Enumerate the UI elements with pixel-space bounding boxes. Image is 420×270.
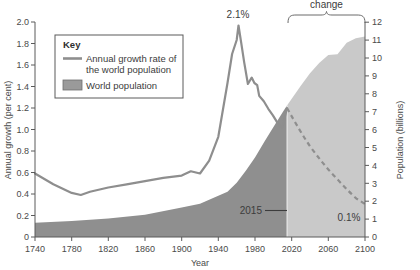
right-axis-ticks — [365, 22, 369, 237]
x-tick-2060: 2060 — [318, 244, 338, 254]
legend-title: Key — [63, 39, 81, 50]
left-tick-3: 0.6 — [16, 168, 29, 178]
legend-item-population-label: World population — [86, 80, 157, 91]
legend-item-growth-label-line1: Annual growth rate of — [86, 53, 177, 64]
left-tick-5: 1.0 — [16, 125, 29, 135]
x-axis-title: Year — [191, 258, 209, 268]
legend-item-growth-label-line2: the world population — [86, 64, 171, 75]
right-tick-0: 0 — [372, 232, 377, 242]
right-tick-12: 12 — [372, 17, 382, 27]
right-tick-10: 10 — [372, 53, 382, 63]
right-tick-7: 7 — [372, 107, 377, 117]
left-tick-4: 0.8 — [16, 146, 29, 156]
chart-svg: 0 0.2 0.4 0.6 0.8 1.0 1.2 1.4 1.6 1.8 2.… — [0, 0, 420, 270]
left-tick-7: 1.4 — [16, 82, 29, 92]
right-tick-8: 8 — [372, 89, 377, 99]
right-tick-6: 6 — [372, 125, 377, 135]
left-tick-8: 1.6 — [16, 60, 29, 70]
left-axis-ticks — [31, 22, 35, 237]
legend: Key Annual growth rate of the world popu… — [55, 35, 183, 98]
right-tick-5: 5 — [372, 143, 377, 153]
peak-growth-annotation: 2.1% — [227, 9, 250, 20]
projection-brace-label: change — [310, 0, 343, 10]
projection-boundary-annotation: 2015 — [240, 205, 263, 216]
x-tick-1900: 1900 — [172, 244, 192, 254]
right-tick-11: 11 — [372, 35, 381, 45]
left-tick-2: 0.4 — [16, 189, 29, 199]
right-tick-9: 9 — [372, 71, 377, 81]
right-tick-2: 2 — [372, 196, 377, 206]
x-tick-1940: 1940 — [208, 244, 228, 254]
left-tick-0: 0 — [24, 232, 29, 242]
projection-end-annotation: 0.1% — [338, 212, 361, 223]
right-axis-title: Population (billions) — [395, 101, 405, 180]
bottom-axis-ticks — [35, 237, 365, 241]
x-tick-1740: 1740 — [25, 244, 45, 254]
left-tick-1: 0.2 — [16, 211, 29, 221]
x-tick-1820: 1820 — [98, 244, 118, 254]
left-tick-9: 1.8 — [16, 39, 29, 49]
left-axis-title: Annual growth (per cent) — [3, 81, 13, 180]
x-tick-2020: 2020 — [282, 244, 302, 254]
x-tick-2100: 2100 — [355, 244, 375, 254]
population-growth-chart: 0 0.2 0.4 0.6 0.8 1.0 1.2 1.4 1.6 1.8 2.… — [0, 0, 420, 270]
x-tick-1860: 1860 — [135, 244, 155, 254]
left-tick-10: 2.0 — [16, 17, 29, 27]
right-tick-4: 4 — [372, 161, 377, 171]
legend-swatch-marker — [63, 80, 82, 90]
right-tick-1: 1 — [372, 214, 377, 224]
x-tick-1980: 1980 — [245, 244, 265, 254]
right-tick-3: 3 — [372, 179, 377, 189]
right-axis-tick-labels: 0 1 2 3 4 5 6 7 8 9 10 11 12 — [372, 17, 382, 242]
bottom-axis-tick-labels: 1740 1780 1820 1860 1900 1940 1980 2020 … — [25, 244, 375, 254]
projection-brace — [288, 12, 365, 24]
left-tick-6: 1.2 — [16, 103, 29, 113]
left-axis-tick-labels: 0 0.2 0.4 0.6 0.8 1.0 1.2 1.4 1.6 1.8 2.… — [16, 17, 29, 242]
x-tick-1780: 1780 — [62, 244, 82, 254]
